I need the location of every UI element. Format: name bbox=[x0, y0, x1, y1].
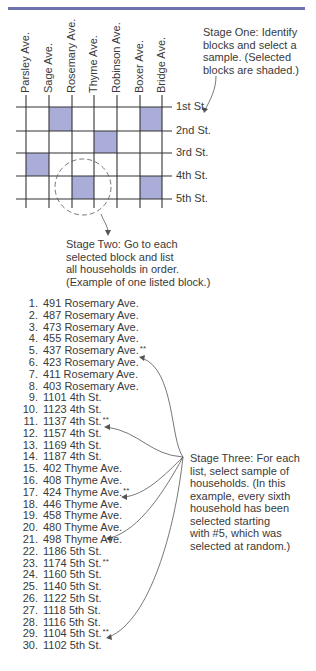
caption-line: blocks and select a bbox=[203, 39, 299, 52]
arrow-to-5 bbox=[142, 358, 183, 457]
street-label: 3rd St. bbox=[176, 146, 208, 158]
caption-line: Stage One: Identify bbox=[203, 26, 299, 39]
caption-line: blocks are shaded.) bbox=[203, 64, 299, 77]
caption-line: sample. (Selected bbox=[203, 51, 299, 64]
household-list: 1.491 Rosemary Ave.2.487 Rosemary Ave.3.… bbox=[14, 298, 146, 652]
household-number: 2. bbox=[14, 310, 43, 322]
household-address: 498 Thyme Ave. bbox=[43, 534, 122, 546]
household-address: 408 Thyme Ave. bbox=[43, 475, 122, 487]
household-row: 2.487 Rosemary Ave. bbox=[14, 310, 146, 322]
selected-marker: ** bbox=[140, 343, 146, 355]
household-row: 27.1118 5th St. bbox=[14, 605, 146, 617]
caption-line: with #5, which was bbox=[190, 527, 300, 540]
household-number: 12. bbox=[14, 428, 43, 440]
household-number: 22. bbox=[14, 546, 43, 558]
stage-two-caption: Stage Two: Go to each selected block and… bbox=[66, 238, 210, 288]
selected-marker: ** bbox=[103, 626, 109, 638]
stage-one-caption: Stage One: Identify blocks and select a … bbox=[203, 26, 299, 76]
street-label: 2nd St. bbox=[176, 124, 211, 136]
shaded-block bbox=[26, 153, 49, 176]
caption-line: selected block and list bbox=[66, 251, 210, 264]
shaded-block bbox=[140, 176, 162, 199]
household-row: 21.498 Thyme Ave. bbox=[14, 534, 146, 546]
selected-marker: ** bbox=[103, 414, 109, 426]
caption-line: household has been bbox=[190, 502, 300, 515]
household-address: 411 Rosemary Ave. bbox=[43, 369, 138, 381]
avenue-label: Parsley Ave. bbox=[19, 32, 31, 93]
household-address: 1137 4th St. bbox=[43, 416, 102, 428]
household-row: 22.1186 5th St. bbox=[14, 546, 146, 558]
caption-line: list, select sample of bbox=[190, 465, 300, 478]
household-number: 17. bbox=[14, 487, 43, 499]
household-row: 26.1122 5th St. bbox=[14, 593, 146, 605]
selected-marker: ** bbox=[103, 556, 109, 568]
shaded-block bbox=[72, 176, 94, 199]
shaded-block bbox=[140, 107, 162, 131]
shaded-block bbox=[94, 131, 117, 153]
household-row: 12.1157 4th St. bbox=[14, 428, 146, 440]
avenue-label: Thyme Ave. bbox=[87, 35, 99, 93]
shaded-block bbox=[49, 107, 72, 131]
household-row: 11.1137 4th St.** bbox=[14, 416, 146, 428]
avenue-label: Robinson Ave. bbox=[110, 22, 122, 93]
avenue-label: Boxer Ave. bbox=[133, 40, 145, 93]
household-address: 1186 5th St. bbox=[43, 546, 102, 558]
caption-line: Stage Two: Go to each bbox=[66, 238, 210, 251]
household-row: 7.411 Rosemary Ave. bbox=[14, 369, 146, 381]
avenue-label: Sage Ave. bbox=[42, 43, 54, 93]
household-number: 11. bbox=[14, 416, 43, 428]
street-label: 4th St. bbox=[176, 169, 208, 181]
household-address: 1118 5th St. bbox=[43, 605, 101, 617]
caption-line: (Example of one listed block.) bbox=[66, 276, 210, 289]
household-address: 1157 4th St. bbox=[43, 428, 102, 440]
caption-line: all households in order. bbox=[66, 263, 210, 276]
household-row: 30.1102 5th St. bbox=[14, 640, 146, 652]
avenue-label: Bridge Ave. bbox=[155, 37, 167, 93]
stage-three-caption: Stage Three: For each list, select sampl… bbox=[190, 452, 300, 552]
caption-line: selected at random.) bbox=[190, 540, 300, 553]
caption-line: households. (In this bbox=[190, 477, 300, 490]
household-address: 424 Thyme Ave. bbox=[43, 487, 122, 499]
caption-line: Stage Three: For each bbox=[190, 452, 300, 465]
street-label: 1st St. bbox=[176, 100, 207, 112]
household-row: 17.424 Thyme Ave.** bbox=[14, 487, 146, 499]
household-number: 21. bbox=[14, 534, 43, 546]
household-address: 423 Rosemary Ave. bbox=[43, 357, 139, 369]
household-address: 487 Rosemary Ave. bbox=[43, 310, 139, 322]
household-number: 16. bbox=[14, 475, 43, 487]
caption-line: selected starting bbox=[190, 515, 300, 528]
household-row: 6.423 Rosemary Ave. bbox=[14, 357, 146, 369]
caption-line: example, every sixth bbox=[190, 490, 300, 503]
household-address: 1122 5th St. bbox=[43, 593, 102, 605]
household-number: 6. bbox=[14, 357, 43, 369]
household-number: 27. bbox=[14, 605, 43, 617]
street-label: 5th St. bbox=[176, 192, 208, 204]
household-number: 7. bbox=[14, 369, 43, 381]
household-address: 1102 5th St. bbox=[43, 640, 102, 652]
household-number: 30. bbox=[14, 640, 43, 652]
selected-marker: ** bbox=[123, 485, 129, 497]
household-number: 26. bbox=[14, 593, 43, 605]
avenue-label: Rosemary Ave. bbox=[65, 19, 77, 93]
